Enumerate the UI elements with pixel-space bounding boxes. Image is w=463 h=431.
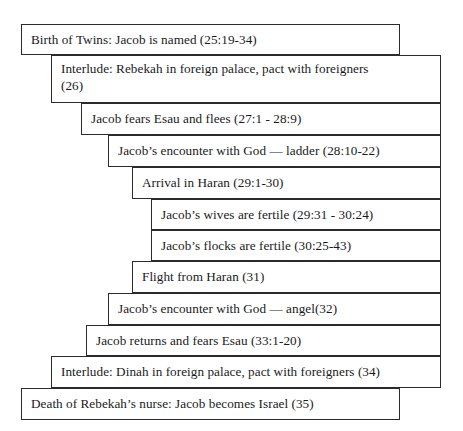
chiasm-box-label: Jacob’s flocks are fertile (30:25-43)	[161, 237, 351, 254]
chiasm-box-label: Flight from Haran (31)	[142, 268, 264, 285]
chiasm-box-label: Interlude: Dinah in foreign palace, pact…	[61, 363, 380, 380]
chiasm-box-label: Jacob fears Esau and flees (27:1 - 28:9)	[91, 110, 301, 127]
chiasm-box: Flight from Haran (31)	[132, 261, 441, 293]
chiasm-diagram: Birth of Twins: Jacob is named (25:19-34…	[0, 0, 463, 431]
chiasm-box: Death of Rebekah’s nurse: Jacob becomes …	[21, 388, 400, 420]
chiasm-box-label: Jacob’s encounter with God — angel(32)	[118, 300, 337, 317]
chiasm-box-label: Interlude: Rebekah in foreign palace, pa…	[61, 60, 369, 95]
chiasm-box: Jacob’s encounter with God — angel(32)	[108, 293, 441, 325]
chiasm-box-label: Jacob’s wives are fertile (29:31 - 30:24…	[161, 206, 373, 223]
chiasm-box: Jacob’s encounter with God — ladder (28:…	[108, 135, 441, 167]
chiasm-box-stack: Birth of Twins: Jacob is named (25:19-34…	[0, 0, 463, 431]
chiasm-box-label: Jacob’s encounter with God — ladder (28:…	[118, 142, 380, 159]
chiasm-box: Interlude: Dinah in foreign palace, pact…	[51, 356, 441, 388]
chiasm-box-label: Jacob returns and fears Esau (33:1-20)	[96, 332, 301, 349]
chiasm-box: Arrival in Haran (29:1-30)	[132, 167, 441, 199]
chiasm-box: Birth of Twins: Jacob is named (25:19-34…	[21, 24, 400, 55]
chiasm-box: Jacob’s wives are fertile (29:31 - 30:24…	[151, 199, 441, 230]
chiasm-box-label: Birth of Twins: Jacob is named (25:19-34…	[31, 31, 257, 48]
chiasm-box-label: Arrival in Haran (29:1-30)	[142, 174, 284, 191]
chiasm-box: Jacob’s flocks are fertile (30:25-43)	[151, 230, 441, 261]
chiasm-box: Jacob returns and fears Esau (33:1-20)	[86, 325, 441, 356]
chiasm-box: Jacob fears Esau and flees (27:1 - 28:9)	[81, 103, 441, 135]
chiasm-box: Interlude: Rebekah in foreign palace, pa…	[51, 55, 441, 103]
chiasm-box-label: Death of Rebekah’s nurse: Jacob becomes …	[31, 395, 314, 412]
